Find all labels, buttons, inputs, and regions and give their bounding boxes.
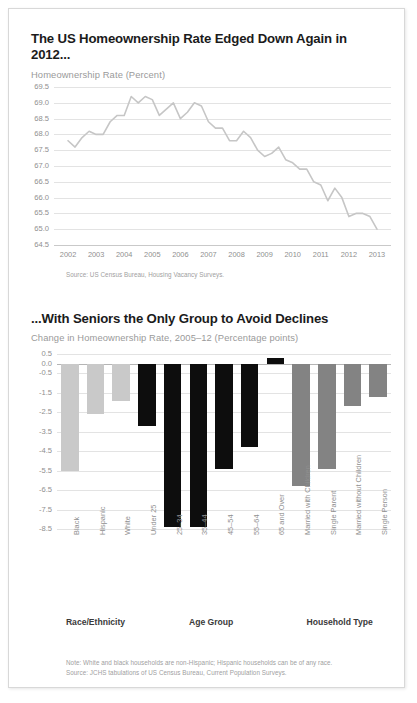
homeownership-rate-line <box>54 87 391 245</box>
y-axis-tick-label: -7.5 <box>9 506 52 514</box>
bar <box>344 364 361 407</box>
bar <box>138 364 155 426</box>
bar-chart-plot-area <box>57 354 391 529</box>
y-axis-tick-label: -2.5 <box>9 408 52 416</box>
y-axis-tick-label: 65.0 <box>9 225 49 233</box>
bar <box>164 364 181 527</box>
infographic-page: The US Homeownership Rate Edged Down Aga… <box>8 8 405 688</box>
y-axis-tick-label: -1.5 <box>9 389 52 397</box>
bar <box>267 358 284 364</box>
x-axis-tick-label: 2003 <box>82 251 110 259</box>
bar <box>61 364 78 471</box>
group-label: Age Group <box>141 617 281 627</box>
x-axis-tick-label: 2009 <box>251 251 279 259</box>
category-label: Black <box>73 517 81 535</box>
category-label: Under 25 <box>150 505 158 535</box>
bar <box>369 364 386 397</box>
x-axis-tick-label: 2005 <box>138 251 166 259</box>
category-label: 35–44 <box>201 514 209 535</box>
bar <box>215 364 232 469</box>
y-axis-tick-label: 66.5 <box>9 178 49 186</box>
x-axis-tick-label: 2013 <box>363 251 391 259</box>
category-label: Married without Children <box>355 455 363 535</box>
bar-chart-bars <box>57 354 391 529</box>
y-axis-tick-label: 69.0 <box>9 99 49 107</box>
y-axis-tick-label: 67.0 <box>9 162 49 170</box>
bar <box>190 364 207 527</box>
category-label: Single Person <box>381 489 389 535</box>
category-label: Hispanic <box>99 507 107 535</box>
x-axis-tick-label: 2010 <box>279 251 307 259</box>
y-axis-tick-label: 67.5 <box>9 146 49 154</box>
gridline <box>57 529 391 530</box>
bar <box>318 364 335 469</box>
y-axis-tick-label: 68.5 <box>9 115 49 123</box>
x-axis-tick-label: 2006 <box>166 251 194 259</box>
source-note-top: Source: US Census Bureau, Housing Vacanc… <box>66 271 224 279</box>
x-axis-tick-label: 2002 <box>54 251 82 259</box>
chart-title-bottom: ...With Seniors the Only Group to Avoid … <box>31 311 386 327</box>
x-axis-tick-label: 2008 <box>223 251 251 259</box>
x-axis-tick-label: 2011 <box>307 251 335 259</box>
category-label: Married with Children <box>304 465 312 535</box>
chart-subtitle-top: Homeownership Rate (Percent) <box>31 69 165 80</box>
y-axis-tick-label: -5.5 <box>9 467 52 475</box>
group-label: Household Type <box>270 617 410 627</box>
note-bottom: Note: White and black households are non… <box>66 659 332 667</box>
x-axis-tick-label: 2004 <box>110 251 138 259</box>
x-axis-line <box>54 245 391 246</box>
x-axis-tick-label: 2012 <box>335 251 363 259</box>
y-axis-tick-label: 0.0 <box>9 360 52 368</box>
y-axis-tick-label: -4.5 <box>9 447 52 455</box>
y-axis-tick-label: -6.5 <box>9 486 52 494</box>
y-axis-tick-label: 65.5 <box>9 209 49 217</box>
category-label: 55–64 <box>253 514 261 535</box>
bar <box>112 364 129 401</box>
category-label: 25–34 <box>176 514 184 535</box>
category-label: 45–54 <box>227 514 235 535</box>
y-axis-tick-label: 64.5 <box>9 241 49 249</box>
chart-title-top: The US Homeownership Rate Edged Down Aga… <box>31 31 381 63</box>
y-axis-tick-label: -0.5 <box>9 369 52 377</box>
y-axis-tick-label: -8.5 <box>9 525 52 533</box>
x-axis-tick-label: 2007 <box>194 251 222 259</box>
category-label: White <box>124 516 132 535</box>
y-axis-tick-label: -3.5 <box>9 428 52 436</box>
category-label: 65 and Over <box>278 494 286 535</box>
y-axis-tick-label: 66.0 <box>9 194 49 202</box>
line-chart-plot-area <box>54 87 391 245</box>
source-note-bottom: Source: JCHS tabulations of US Census Bu… <box>66 669 287 677</box>
y-axis-tick-label: 68.0 <box>9 130 49 138</box>
bar <box>241 364 258 448</box>
bar <box>87 364 104 415</box>
chart-subtitle-bottom: Change in Homeownership Rate, 2005–12 (P… <box>31 332 298 343</box>
y-axis-tick-label: 69.5 <box>9 83 49 91</box>
category-label: Single Parent <box>330 491 338 535</box>
y-axis-tick-label: 0.5 <box>9 350 52 358</box>
